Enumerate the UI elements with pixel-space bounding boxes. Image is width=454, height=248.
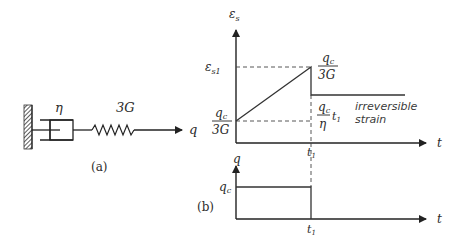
qc-label: qc [219,180,232,195]
drop-strain-label: qc 3G [318,51,338,82]
elastic-strain-label: qc 3G [212,106,232,137]
x-axis-label-bottom: t [437,212,442,226]
load-chart: q qc t1 t (b) [197,152,442,237]
q-axis-label: q [233,152,241,166]
diagram-canvas: η 3G q (a) εs εs1 qc 3G qc 3G [0,0,454,248]
t1-label-top: t1 [307,146,316,160]
irreversible-label: irreversible [355,100,417,113]
svg-text:3G: 3G [318,68,336,82]
strain-label: strain [355,113,386,126]
t1-label-bottom: t1 [307,223,316,237]
y-axis-label: εs [229,7,240,23]
spring-icon [92,125,134,135]
panel-a-caption: (a) [91,160,108,174]
spring-label: 3G [116,100,135,115]
eps-s1-label: εs1 [205,60,221,76]
svg-text:qc: qc [215,106,228,121]
damper-label: η [55,100,63,115]
force-label: q [189,122,197,137]
svg-text:t1: t1 [332,110,341,124]
svg-text:η: η [319,117,327,131]
svg-text:qc: qc [322,51,335,66]
panel-b-caption: (b) [197,200,214,214]
fixed-wall-icon [24,105,32,149]
svg-text:3G: 3G [212,123,230,137]
load-curve [236,187,311,219]
mechanical-model: η 3G q (a) [24,100,197,174]
viscous-strain-label: qc η t1 [317,100,341,131]
svg-text:qc: qc [318,100,331,115]
x-axis-label-top: t [437,136,442,150]
